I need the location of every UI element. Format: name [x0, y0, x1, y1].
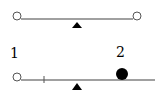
- fulcrum-top-icon: [72, 22, 82, 28]
- seesaw-diagram: 1 2: [0, 0, 165, 93]
- weight-2-label: 2: [116, 44, 125, 60]
- weight-2: [116, 68, 128, 80]
- seesaw-bottom: 1 2: [10, 44, 155, 90]
- left-weight-top: [13, 12, 21, 20]
- right-weight-top: [133, 12, 141, 20]
- weight-1-label: 1: [10, 45, 19, 61]
- seesaw-top: [13, 12, 141, 28]
- weight-1: [13, 73, 21, 81]
- fulcrum-bottom-icon: [72, 83, 82, 90]
